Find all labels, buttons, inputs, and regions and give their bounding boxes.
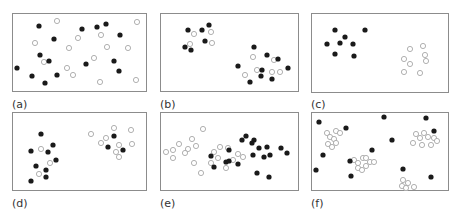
open-point [235, 151, 240, 156]
open-point [407, 46, 412, 51]
filled-point [83, 61, 88, 66]
open-point [163, 149, 168, 154]
panel-f [312, 113, 449, 191]
filled-point [94, 24, 99, 29]
open-point [32, 40, 37, 45]
open-point [116, 142, 121, 147]
open-point [133, 77, 138, 82]
open-point [200, 126, 205, 131]
panel-b [161, 14, 299, 92]
open-point [333, 140, 338, 145]
filled-point [256, 145, 261, 150]
filled-point [266, 174, 271, 179]
open-point [208, 29, 213, 34]
filled-point [389, 137, 394, 142]
open-point [254, 67, 259, 72]
open-point [401, 69, 406, 74]
filled-point [423, 115, 428, 120]
open-point [371, 159, 376, 164]
open-point [97, 79, 102, 84]
open-point [98, 140, 103, 145]
open-point [422, 52, 427, 57]
filled-point [249, 140, 254, 145]
open-point [410, 140, 415, 145]
open-point [36, 171, 41, 176]
filled-point [226, 158, 231, 163]
filled-point [362, 27, 367, 32]
open-point [191, 160, 196, 165]
open-point [423, 58, 428, 63]
filled-point [29, 73, 34, 78]
open-point [359, 167, 364, 172]
open-point [170, 147, 175, 152]
filled-point [14, 65, 19, 70]
panel-label: (f) [311, 197, 323, 210]
filled-point [79, 26, 84, 31]
filled-point [269, 76, 274, 81]
filled-point [258, 73, 263, 78]
open-point [215, 155, 220, 160]
filled-point [243, 133, 248, 138]
filled-point [247, 79, 252, 84]
open-point [277, 69, 282, 74]
open-point [413, 131, 418, 136]
open-point [113, 149, 118, 154]
open-point [128, 127, 133, 132]
filled-point [42, 80, 47, 85]
open-point [64, 65, 69, 70]
filled-point [182, 44, 187, 49]
panel-label: (b) [160, 98, 176, 111]
filled-point [202, 38, 207, 43]
filled-point [37, 52, 42, 57]
filled-point [50, 142, 55, 147]
open-point [363, 163, 368, 168]
filled-point [400, 166, 405, 171]
open-point [104, 44, 109, 49]
open-point [419, 142, 424, 147]
open-point [91, 55, 96, 60]
open-point [401, 56, 406, 61]
open-point [217, 144, 222, 149]
filled-point [111, 133, 116, 138]
panel-a [13, 14, 147, 92]
panel-label: (a) [12, 98, 27, 111]
open-point [88, 131, 93, 136]
open-point [193, 143, 198, 148]
panel-c [312, 14, 449, 93]
filled-point [185, 27, 190, 32]
scatter-figure [0, 0, 461, 213]
filled-point [105, 144, 110, 149]
filled-point [284, 150, 289, 155]
open-point [176, 141, 181, 146]
filled-point [45, 149, 50, 154]
filled-point [250, 152, 255, 157]
open-point [134, 19, 139, 24]
open-point [421, 130, 426, 135]
filled-point [188, 47, 193, 52]
filled-point [313, 167, 318, 172]
filled-point [226, 147, 231, 152]
filled-point [51, 36, 56, 41]
panel-label: (d) [12, 197, 28, 210]
panel-frame [13, 14, 147, 92]
filled-point [348, 173, 353, 178]
open-point [407, 61, 412, 66]
filled-point [342, 34, 347, 39]
open-point [198, 170, 203, 175]
panel-frame [312, 14, 449, 93]
filled-point [33, 163, 38, 168]
filled-point [332, 27, 337, 32]
filled-point [343, 125, 348, 130]
open-point [54, 18, 59, 23]
open-point [191, 31, 196, 36]
filled-point [332, 51, 337, 56]
filled-point [111, 58, 116, 63]
filled-point [235, 161, 240, 166]
filled-point [264, 52, 269, 57]
filled-point [54, 72, 59, 77]
open-point [329, 144, 334, 149]
open-point [70, 72, 75, 77]
open-point [420, 43, 425, 48]
open-point [47, 160, 52, 165]
open-point [411, 184, 416, 189]
